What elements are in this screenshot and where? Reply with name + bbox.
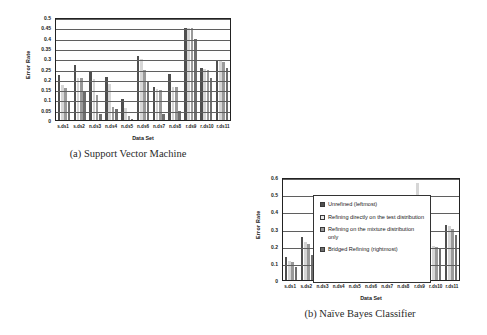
bar xyxy=(128,116,131,120)
bar-group xyxy=(198,19,214,120)
y-axis-ticks-b: 00.10.20.30.40.50.6 xyxy=(260,178,280,281)
bar xyxy=(156,89,159,120)
x-axis-label-a: Data Set xyxy=(55,135,231,141)
bar xyxy=(89,72,92,120)
x-tick-label: r.ds9 xyxy=(186,124,197,129)
bar xyxy=(137,56,140,120)
bar-groups-a xyxy=(56,19,230,120)
bar xyxy=(58,75,61,120)
gridline xyxy=(56,91,230,92)
gridline xyxy=(56,81,230,82)
bar-group xyxy=(183,19,199,120)
legend-swatch-refining-test xyxy=(320,215,325,220)
bar xyxy=(159,90,162,120)
bar xyxy=(435,247,438,280)
bar xyxy=(147,81,150,120)
legend-label-bridged-refining: Bridged Refining (rightmost) xyxy=(328,246,398,253)
y-tick-label: 0.2 xyxy=(44,77,51,83)
bar xyxy=(77,78,80,120)
legend-label-refining-test: Refining directly on the test distributi… xyxy=(328,214,424,221)
bar-group xyxy=(151,19,167,120)
x-tick-label: n.ds6 xyxy=(365,284,377,289)
legend-item: Refining on the mixture distribution onl… xyxy=(320,226,425,240)
gridline xyxy=(56,40,230,41)
x-tick-label: n.ds5 xyxy=(349,284,361,289)
gridline xyxy=(56,19,230,20)
x-tick-label: n.ds7 xyxy=(381,284,393,289)
bar-group xyxy=(119,19,135,120)
y-tick-label: 0 xyxy=(275,278,278,284)
x-tick-label: n.ds3 xyxy=(89,124,101,129)
bar xyxy=(432,246,435,280)
x-tick-label: r.ds9 xyxy=(414,284,425,289)
x-tick-label: s.ds2 xyxy=(73,124,85,129)
legend-item: Refining directly on the test distributi… xyxy=(320,214,425,221)
bar xyxy=(451,229,454,280)
legend-label-refining-mixture: Refining on the mixture distribution onl… xyxy=(328,226,425,240)
bar xyxy=(448,226,451,280)
y-tick-label: 0.45 xyxy=(41,25,51,31)
bar xyxy=(131,119,134,120)
x-tick-label: n.ds8 xyxy=(397,284,409,289)
bar-group xyxy=(214,19,230,120)
gridline xyxy=(56,29,230,30)
bar xyxy=(162,114,165,120)
x-tick-label: n.ds5 xyxy=(121,124,133,129)
x-tick-label: r.ds10 xyxy=(429,284,442,289)
gridline xyxy=(56,101,230,102)
bar-group xyxy=(56,19,72,120)
bar xyxy=(105,77,108,120)
bar xyxy=(83,91,86,120)
bar xyxy=(301,237,304,280)
bar xyxy=(121,99,124,120)
x-tick-label: n.ds8 xyxy=(169,124,181,129)
x-tick-label: n.ds3 xyxy=(316,284,328,289)
legend-swatch-unrefined xyxy=(320,202,325,207)
gridline xyxy=(283,179,459,180)
y-axis-ticks-a: 00.050.10.150.20.250.30.350.40.450.5 xyxy=(30,18,53,121)
caption-a: (a) Support Vector Machine xyxy=(22,148,234,159)
y-tick-label: 0.1 xyxy=(44,97,51,103)
bar xyxy=(64,88,67,120)
y-tick-label: 0.4 xyxy=(271,209,278,215)
legend-item: Bridged Refining (rightmost) xyxy=(320,246,425,253)
y-tick-label: 0.5 xyxy=(271,192,278,198)
x-tick-label: s.ds2 xyxy=(300,284,312,289)
gridline xyxy=(56,50,230,51)
bar xyxy=(99,114,102,120)
y-tick-label: 0.4 xyxy=(44,36,51,42)
y-tick-label: 0.2 xyxy=(271,244,278,250)
bar xyxy=(124,108,127,120)
bar-group xyxy=(88,19,104,120)
x-tick-label: n.ds6 xyxy=(137,124,149,129)
gridline xyxy=(56,60,230,61)
bar xyxy=(80,78,83,120)
bar xyxy=(445,225,448,280)
bar xyxy=(175,87,178,120)
x-tick-label: r.ds10 xyxy=(200,124,213,129)
bar xyxy=(194,39,197,120)
x-tick-label: n.ds4 xyxy=(333,284,345,289)
bar-group xyxy=(135,19,151,120)
x-axis-ticks-b: s.ds1s.ds2n.ds3n.ds4n.ds5n.ds6n.ds7n.ds8… xyxy=(282,284,460,294)
chart-support-vector-machine: Error Rate 00.050.10.150.20.250.30.350.4… xyxy=(22,8,234,168)
bar xyxy=(307,244,310,280)
caption-b: (b) Naïve Bayes Classifier xyxy=(252,308,468,319)
bar xyxy=(285,257,288,280)
x-tick-label: r.ds11 xyxy=(445,284,458,289)
x-tick-label: s.ds1 xyxy=(284,284,296,289)
bar-group xyxy=(72,19,88,120)
bar xyxy=(191,28,194,120)
bar xyxy=(112,107,115,120)
y-tick-label: 0.05 xyxy=(41,108,51,114)
y-tick-label: 0.25 xyxy=(41,67,51,73)
legend: Unrefined (leftmost) Refining directly o… xyxy=(313,195,431,283)
bar xyxy=(210,78,213,120)
y-tick-label: 0.3 xyxy=(271,227,278,233)
legend-swatch-bridged-refining xyxy=(320,247,325,252)
bar xyxy=(187,28,190,120)
bar xyxy=(93,79,96,120)
bar xyxy=(96,95,99,120)
x-tick-label: s.ds1 xyxy=(57,124,69,129)
y-tick-label: 0.1 xyxy=(271,261,278,267)
